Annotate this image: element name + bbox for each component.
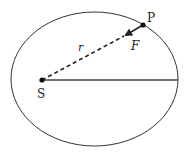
orbit-diagram: S P r F xyxy=(0,0,187,156)
label-f: F xyxy=(130,39,140,53)
point-p-dot xyxy=(140,22,145,27)
label-r: r xyxy=(78,41,84,54)
label-s: S xyxy=(37,87,45,101)
force-arrow xyxy=(126,25,143,35)
label-p: P xyxy=(147,11,155,25)
orbit-ellipse xyxy=(11,12,178,146)
point-s-dot xyxy=(39,77,44,82)
